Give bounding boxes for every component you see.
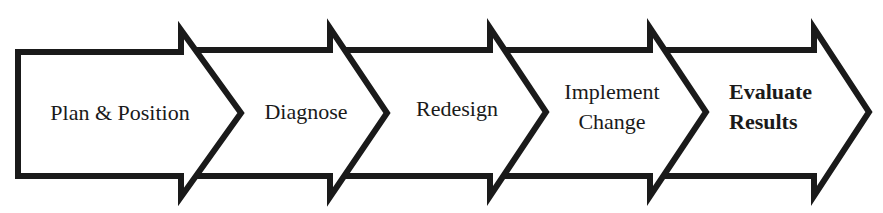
step-4-line-2: Change <box>551 107 673 137</box>
step-label-implement-change: Implement Change <box>551 77 673 137</box>
step-2-line-1: Diagnose <box>246 97 366 127</box>
step-label-diagnose: Diagnose <box>246 97 366 127</box>
step-label-redesign: Redesign <box>397 94 517 124</box>
step-5-line-1: Evaluate <box>729 77 839 107</box>
step-5-line-2: Results <box>729 107 839 137</box>
step-3-line-1: Redesign <box>397 94 517 124</box>
step-4-line-1: Implement <box>551 77 673 107</box>
process-flow-diagram: Plan & Position Diagnose Redesign Implem… <box>0 0 883 213</box>
step-1-line-1: Plan & Position <box>30 98 210 128</box>
step-label-plan-position: Plan & Position <box>30 98 210 128</box>
step-label-evaluate-results: Evaluate Results <box>729 77 839 137</box>
